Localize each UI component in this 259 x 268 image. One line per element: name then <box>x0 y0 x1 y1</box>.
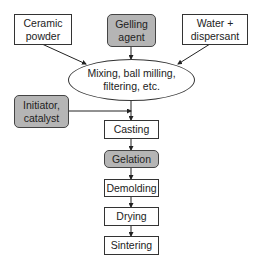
sintering-label: Sintering <box>111 239 152 252</box>
mixing-step: Mixing, ball milling, filtering, etc. <box>68 59 195 101</box>
input-gelling-agent: Gelling agent <box>107 14 156 47</box>
step-sintering: Sintering <box>104 236 159 255</box>
step-gelation: Gelation <box>104 150 159 168</box>
ceramic-powder-label: Ceramic powder <box>23 17 62 43</box>
demolding-label: Demolding <box>106 182 156 195</box>
initiator-catalyst-label: Initiator, catalyst <box>23 99 60 125</box>
gelling-agent-label: Gelling agent <box>115 18 148 44</box>
mixing-label: Mixing, ball milling, filtering, etc. <box>87 67 175 93</box>
casting-label: Casting <box>114 123 150 136</box>
step-casting: Casting <box>104 120 159 139</box>
step-drying: Drying <box>104 207 159 226</box>
input-initiator-catalyst: Initiator, catalyst <box>14 95 69 128</box>
step-demolding: Demolding <box>104 179 159 197</box>
water-dispersant-label: Water + dispersant <box>191 17 239 43</box>
input-water-dispersant: Water + dispersant <box>182 14 248 45</box>
drying-label: Drying <box>116 210 146 223</box>
gelation-label: Gelation <box>112 153 151 166</box>
input-ceramic-powder: Ceramic powder <box>14 14 72 45</box>
